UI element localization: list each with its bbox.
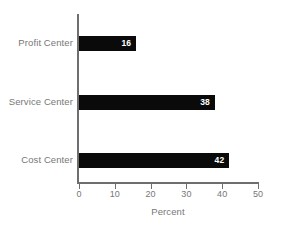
x-axis-title: Percent <box>77 206 259 217</box>
category-label: Cost Center <box>21 154 73 165</box>
x-axis-line <box>77 182 259 184</box>
bar-value-label: 16 <box>121 39 136 48</box>
category-label: Profit Center <box>18 37 73 48</box>
bar: 16 <box>79 36 136 51</box>
x-tick-label: 30 <box>171 189 201 199</box>
x-tick-label: 10 <box>100 189 130 199</box>
bar-value-label: 42 <box>215 156 230 165</box>
bar-chart: 01020304050 Profit Center16Service Cente… <box>0 0 281 230</box>
category-label: Service Center <box>9 96 73 107</box>
bar-row: Profit Center16 <box>0 36 281 51</box>
x-tick-label: 0 <box>64 189 94 199</box>
bar: 42 <box>79 153 229 168</box>
bar: 38 <box>79 95 215 110</box>
x-tick-label: 40 <box>207 189 237 199</box>
bar-value-label: 38 <box>200 98 215 107</box>
bar-row: Cost Center42 <box>0 153 281 168</box>
x-tick-label: 50 <box>243 189 273 199</box>
bar-row: Service Center38 <box>0 95 281 110</box>
x-tick-label: 20 <box>136 189 166 199</box>
